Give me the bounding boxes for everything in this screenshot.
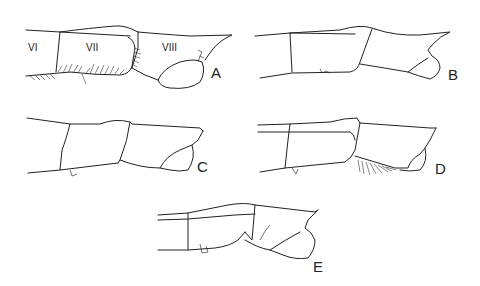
figure-plate	[0, 0, 480, 286]
panel-label-c: C	[197, 158, 208, 175]
panel-label-a: A	[211, 64, 221, 81]
panel-a-drawing	[26, 26, 232, 89]
panel-d-drawing	[258, 118, 436, 175]
panel-c-drawing	[27, 118, 203, 176]
panel-label-d: D	[435, 160, 446, 177]
panel-label-e: E	[313, 258, 323, 275]
panel-b-drawing	[255, 26, 450, 79]
segment-label-viii: VIII	[162, 42, 177, 53]
panel-label-b: B	[448, 66, 458, 83]
panel-e-drawing	[158, 204, 318, 259]
segment-label-vi: VI	[28, 42, 37, 53]
segment-label-vii: VII	[86, 42, 98, 53]
